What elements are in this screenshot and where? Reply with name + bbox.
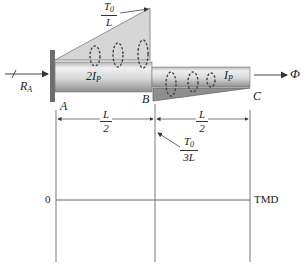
dimension-BC-label: L 2 <box>196 109 208 134</box>
segment-BC-stiffness: IP <box>224 69 233 83</box>
wall-support <box>50 50 55 102</box>
reaction-label: RA <box>20 80 32 94</box>
phi-label: Φ <box>290 67 300 80</box>
lower-load-label: T0 3L <box>180 136 198 163</box>
tmd-axis-label: TMD <box>254 194 278 205</box>
tmd-zero-label: 0 <box>45 194 51 205</box>
point-C-label: C <box>253 90 261 102</box>
point-B-label: B <box>142 93 149 105</box>
upper-load-label: T0 L <box>101 1 117 28</box>
point-A-label: A <box>60 100 67 112</box>
shaft-segment-AB <box>55 62 152 92</box>
lower-load-leader <box>158 133 180 147</box>
shaft-diagram <box>0 0 303 267</box>
lower-load-triangle <box>153 88 250 101</box>
segment-AB-stiffness: 2IP <box>86 70 101 84</box>
dimension-AB-label: L 2 <box>100 109 112 134</box>
